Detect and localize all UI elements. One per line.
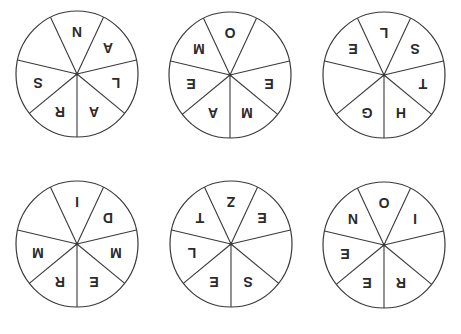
wheel-segment-letter: A	[203, 105, 223, 121]
wheel-segment-letter: A	[84, 104, 104, 120]
wheel-segment-letter: A	[98, 40, 118, 56]
wheel-segment-letter: S	[405, 41, 425, 57]
wheel-segment-letter: E	[181, 76, 201, 92]
wheel-segment-letter: Z	[221, 194, 241, 210]
wheel-segment-letter: S	[238, 274, 258, 290]
wheel-segment-letter: O	[374, 195, 394, 211]
wheel-segment-letter: I	[67, 194, 87, 210]
wheel-segment-letter: H	[391, 105, 411, 121]
wheel-segment-letter	[251, 41, 271, 57]
wheel-segment-letter: O	[220, 25, 240, 41]
wheel-segment-letter: T	[413, 76, 433, 92]
wheel-segment-letter: T	[190, 210, 210, 226]
letter-wheel-1: NALARS	[15, 10, 139, 138]
wheel-segment-letter: R	[391, 275, 411, 291]
wheel-segment-letter	[36, 210, 56, 226]
wheel-segment-letter: E	[357, 275, 377, 291]
wheel-segment-letter	[335, 76, 355, 92]
wheel-segment-letter	[413, 246, 433, 262]
wheel-segment-letter: G	[357, 105, 377, 121]
wheel-segment-letter: R	[50, 104, 70, 120]
letter-wheel-6: OIREEN	[322, 181, 446, 309]
wheel-segment-letter: M	[28, 245, 48, 261]
wheel-segment-letter: E	[84, 274, 104, 290]
wheel-segment-letter: M	[106, 245, 126, 261]
wheel-segment-letter: I	[405, 211, 425, 227]
wheel-segment-letter: M	[189, 41, 209, 57]
wheel-segment-letter	[260, 245, 280, 261]
letter-wheel-3: LSTHGE	[322, 11, 446, 139]
wheel-segment-letter: N	[343, 211, 363, 227]
wheel-segment-letter: E	[204, 274, 224, 290]
wheel-segment-letter: L	[182, 245, 202, 261]
wheel-segment-letter: E	[335, 246, 355, 262]
wheel-segment-letter: M	[237, 105, 257, 121]
wheel-segment-letter: D	[98, 210, 118, 226]
wheel-segment-letter: S	[28, 75, 48, 91]
letter-wheel-4: IDMERM	[15, 180, 139, 308]
letter-wheel-2: OEMAEM	[168, 11, 292, 139]
wheel-segment-letter: L	[374, 25, 394, 41]
letter-wheel-5: ZESELT	[169, 180, 293, 308]
wheel-segment-letter	[36, 40, 56, 56]
wheel-segment-letter: R	[50, 274, 70, 290]
wheel-segment-letter: L	[106, 75, 126, 91]
wheel-segment-letter: N	[67, 24, 87, 40]
wheel-segment-letter: E	[252, 210, 272, 226]
wheel-segment-letter: E	[259, 76, 279, 92]
wheel-segment-letter: E	[343, 41, 363, 57]
